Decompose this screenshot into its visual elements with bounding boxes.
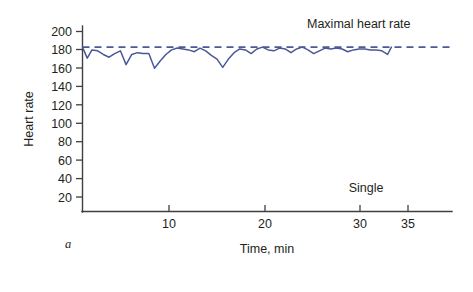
series-group: [83, 47, 453, 68]
annotations-group: Maximal heart rate Single: [307, 17, 411, 195]
y-tick-label-20: 20: [58, 191, 72, 205]
y-tick-labels: 200 180 160 140 120 100 80 60 40 20: [51, 25, 72, 205]
y-tick-label-60: 60: [58, 154, 72, 168]
x-tick-label-30: 30: [353, 217, 367, 231]
maximal-heart-rate-label: Maximal heart rate: [307, 17, 411, 31]
x-tick-label-10: 10: [162, 217, 176, 231]
axes-group: [82, 26, 452, 212]
x-tick-labels: 10 20 30 35: [162, 217, 415, 231]
y-tick-label-180: 180: [51, 43, 72, 57]
y-tick-label-80: 80: [58, 135, 72, 149]
y-tick-label-140: 140: [51, 80, 72, 94]
y-tick-marks: [76, 32, 82, 198]
panel-label-a: a: [65, 237, 71, 251]
x-axis-title: Time, min: [240, 242, 294, 256]
y-tick-label-120: 120: [51, 99, 72, 113]
x-tick-label-20: 20: [258, 217, 272, 231]
x-tick-marks: [169, 205, 408, 211]
y-axis-title: Heart rate: [22, 91, 36, 147]
y-tick-label-100: 100: [51, 117, 72, 131]
heart-rate-series-line: [83, 47, 392, 68]
y-tick-label-200: 200: [51, 25, 72, 39]
y-tick-label-160: 160: [51, 62, 72, 76]
single-label: Single: [349, 181, 384, 195]
chart-figure: 200 180 160 140 120 100 80 60 40 20 10 2…: [0, 0, 473, 292]
y-tick-label-40: 40: [58, 172, 72, 186]
heart-rate-line-chart: 200 180 160 140 120 100 80 60 40 20 10 2…: [0, 0, 473, 292]
x-tick-label-35: 35: [401, 217, 415, 231]
